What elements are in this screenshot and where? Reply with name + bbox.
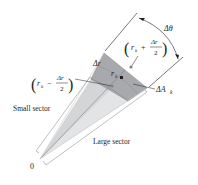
- inner-radius-expression: ( r k − Δr 2 ): [31, 74, 73, 94]
- svg-text:ΔA: ΔA: [155, 85, 166, 94]
- paren-left: (: [124, 40, 129, 58]
- delta-r-label: Δr: [92, 59, 102, 68]
- delta-theta-label: Δθ: [163, 24, 173, 33]
- inner-point-dot: [110, 84, 113, 87]
- small-sector-label: Small sector: [13, 104, 51, 113]
- paren-right: ): [68, 76, 73, 94]
- svg-text:Δr: Δr: [150, 38, 158, 46]
- paren-left: (: [31, 76, 36, 94]
- svg-text:k: k: [170, 89, 173, 95]
- large-sector-label: Large sector: [93, 137, 131, 146]
- svg-text:Δr: Δr: [56, 74, 64, 82]
- svg-text:2: 2: [154, 49, 158, 57]
- svg-text:2: 2: [60, 85, 64, 93]
- outer-point-dot: [129, 65, 132, 68]
- svg-text:−: −: [47, 79, 52, 88]
- delta-a-label: ΔA k: [155, 85, 173, 95]
- svg-text:+: +: [141, 43, 146, 52]
- paren-right: ): [162, 40, 167, 58]
- arrow-head-top: [139, 18, 145, 21]
- svg-text:k: k: [41, 84, 44, 89]
- rk-point-dot: [120, 76, 123, 79]
- outer-radius-expression: ( r k + Δr 2 ): [124, 38, 167, 58]
- leader-outer-radius: [131, 56, 138, 67]
- svg-text:k: k: [135, 48, 138, 53]
- theta-extension-right: [149, 57, 183, 87]
- arrow-head-bottom: [175, 54, 179, 59]
- small-sector-fill: [40, 79, 112, 159]
- polar-area-diagram: 0 Small sector Large sector Δr Δθ ΔA k r…: [0, 0, 198, 185]
- origin-label: 0: [30, 162, 34, 171]
